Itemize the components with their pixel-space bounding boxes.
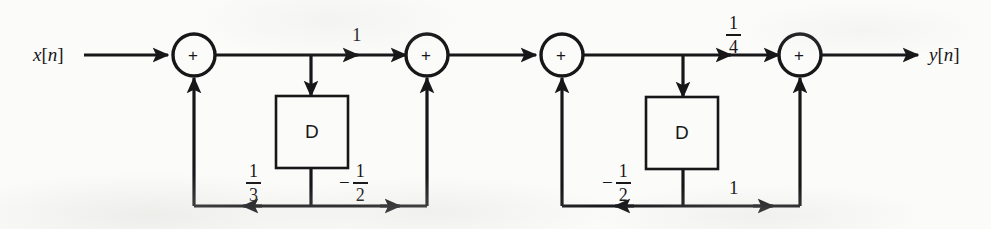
gain-section1-forward: 1 [352, 25, 362, 44]
gain-section2-forward-numerator: 1 [729, 14, 738, 33]
minus-sign-icon: − [602, 172, 613, 194]
fraction-bar-icon [616, 182, 631, 184]
adder-1-plus-sign: + [188, 47, 198, 64]
output-signal-label: y[n] [929, 45, 960, 64]
delay-1-label: D [305, 122, 319, 141]
gain-section2-feedback-left: − 1 2 [602, 162, 631, 204]
minus-sign-icon: − [339, 172, 350, 194]
fraction-bar-icon [726, 34, 741, 36]
fraction-bar-icon [246, 182, 261, 184]
gain-section2-feedback-left-denominator: 2 [619, 185, 628, 204]
fraction-bar-icon [353, 182, 368, 184]
input-signal-label: x[n] [33, 45, 64, 64]
gain-section1-feedback-right: − 1 2 [339, 162, 368, 204]
gain-section2-feedback-right: 1 [729, 178, 739, 197]
gain-section1-feedback-left-denominator: 3 [249, 185, 258, 204]
adder-3-plus-sign: + [556, 47, 566, 64]
gain-section2-forward-denominator: 4 [729, 37, 738, 56]
gain-section1-feedback-right-fraction: 1 2 [353, 162, 368, 204]
gain-section1-feedback-right-numerator: 1 [356, 162, 365, 181]
delay-2-label: D [675, 123, 689, 142]
gain-section2-feedback-left-fraction: 1 2 [616, 162, 631, 204]
gain-section1-feedback-right-denominator: 2 [356, 185, 365, 204]
adder-2-plus-sign: + [421, 47, 431, 64]
gain-section2-forward: 1 4 [726, 14, 741, 56]
gain-section2-feedback-left-numerator: 1 [619, 162, 628, 181]
adder-4-plus-sign: + [794, 47, 804, 64]
gain-section1-feedback-left-numerator: 1 [249, 162, 258, 181]
gain-section1-feedback-left: 1 3 [246, 162, 261, 204]
signal-flow-diagram: + + + + D D x[n] y[n] 1 1 3 − 1 2 1 4 − … [0, 0, 991, 229]
diagram-canvas [0, 0, 991, 229]
